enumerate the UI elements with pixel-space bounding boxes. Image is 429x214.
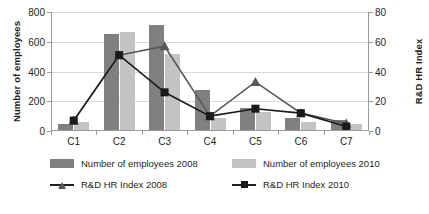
data-point-marker [250, 77, 260, 86]
left-axis-line [51, 12, 52, 131]
combo-chart: Number of employees R&D HR Index 0200400… [0, 0, 429, 214]
right-axis-title: R&D HR Index [413, 12, 424, 132]
category-tick [142, 131, 143, 135]
legend-label-employees-2010: Number of employees 2010 [263, 158, 380, 169]
left-tick-label: 400 [28, 66, 45, 77]
swatch-dark-icon [50, 159, 74, 168]
category-tick [187, 131, 188, 135]
data-point-marker [161, 88, 169, 96]
right-tick [369, 42, 373, 43]
legend-item-index-2010: R&D HR Index 2010 [232, 179, 349, 190]
category-tick [369, 131, 370, 135]
category-label-c3: C3 [158, 136, 171, 147]
category-label-c5: C5 [249, 136, 262, 147]
right-tick [369, 101, 373, 102]
category-tick [278, 131, 279, 135]
category-tick [233, 131, 234, 135]
legend-item-index-2008: R&D HR Index 2008 [50, 179, 232, 190]
left-tick [47, 72, 51, 73]
left-tick-label: 0 [39, 126, 45, 137]
line-triangle-icon [50, 180, 74, 189]
right-tick-label: 40 [375, 66, 386, 77]
line-square-icon [232, 180, 256, 189]
legend-label-index-2010: R&D HR Index 2010 [263, 179, 349, 190]
line-series-layer [51, 12, 369, 131]
left-axis-title: Number of employees [11, 12, 22, 132]
right-tick [369, 72, 373, 73]
category-tick [324, 131, 325, 135]
data-point-marker [206, 112, 214, 120]
chart-legend: Number of employees 2008 Number of emplo… [50, 158, 390, 200]
category-label-c4: C4 [204, 136, 217, 147]
right-tick [369, 12, 373, 13]
left-tick-label: 200 [28, 96, 45, 107]
left-tick [47, 101, 51, 102]
left-tick-label: 800 [28, 7, 45, 18]
category-label-c6: C6 [294, 136, 307, 147]
right-tick-label: 80 [375, 7, 386, 18]
legend-label-employees-2008: Number of employees 2008 [81, 158, 198, 169]
data-point-marker [115, 51, 123, 59]
legend-item-employees-2010: Number of employees 2010 [232, 158, 380, 169]
category-tick [51, 131, 52, 135]
legend-row-bars: Number of employees 2008 Number of emplo… [50, 158, 390, 169]
category-tick [96, 131, 97, 135]
legend-row-lines: R&D HR Index 2008 R&D HR Index 2010 [50, 179, 390, 190]
data-point-marker [297, 109, 305, 117]
left-tick-label: 600 [28, 36, 45, 47]
data-point-marker [70, 117, 78, 125]
left-tick [47, 12, 51, 13]
right-tick-label: 0 [375, 126, 381, 137]
legend-item-employees-2008: Number of employees 2008 [50, 158, 232, 169]
plot-area: 0200400600800 020406080 C1C2C3C4C5C6C7 [51, 12, 369, 131]
left-tick [47, 42, 51, 43]
swatch-light-icon [232, 159, 256, 168]
category-label-c1: C1 [67, 136, 80, 147]
category-label-c2: C2 [113, 136, 126, 147]
data-point-marker [160, 41, 170, 50]
category-axis-line [51, 130, 369, 131]
data-point-marker [251, 105, 259, 113]
legend-label-index-2008: R&D HR Index 2008 [81, 179, 167, 190]
right-tick-label: 20 [375, 96, 386, 107]
category-label-c7: C7 [340, 136, 353, 147]
right-tick-label: 60 [375, 36, 386, 47]
